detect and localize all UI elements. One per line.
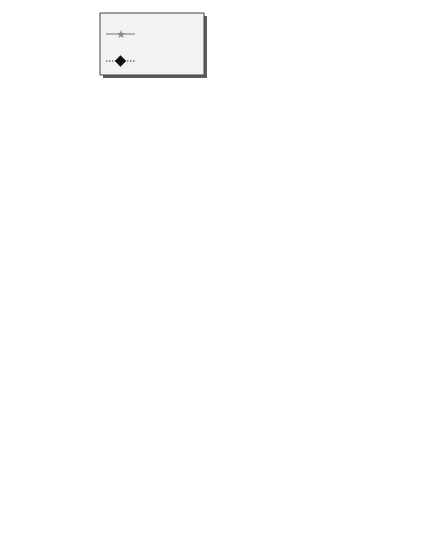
top-line-chart: ★ bbox=[0, 0, 207, 78]
legend-box bbox=[100, 13, 204, 75]
star-marker-icon: ★ bbox=[116, 28, 126, 41]
legend: ★ bbox=[0, 0, 207, 78]
figure: ★ bbox=[0, 0, 445, 535]
